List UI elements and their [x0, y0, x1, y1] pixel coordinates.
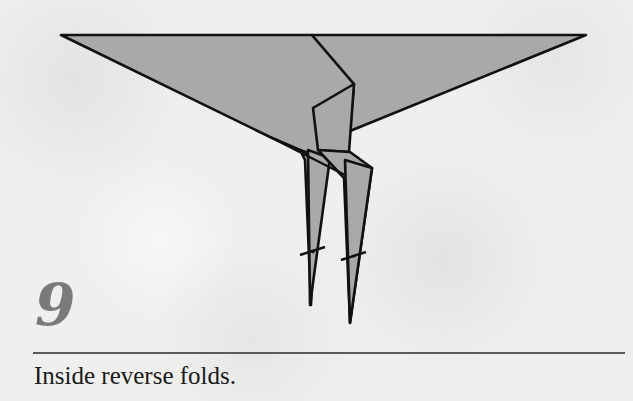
- left-leg-dot: [312, 251, 315, 254]
- right-wing: [312, 35, 586, 131]
- right-leg: [345, 160, 372, 323]
- left-wing: [61, 35, 355, 168]
- right-leg-dot: [353, 255, 356, 258]
- step-instruction: Inside reverse folds.: [34, 363, 236, 388]
- step-number: 9: [35, 276, 75, 334]
- separator-line: [33, 352, 625, 354]
- origami-diagram: [0, 0, 633, 401]
- left-leg: [308, 150, 330, 305]
